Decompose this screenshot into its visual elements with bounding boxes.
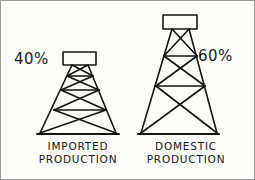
brace-x3a-domestic <box>156 86 217 133</box>
crown-block-imported <box>63 52 96 65</box>
brace-x3b-imported <box>54 90 99 110</box>
percent-label-domestic: 60% <box>198 49 233 64</box>
percent-label-imported: 40% <box>14 52 49 67</box>
caption-domestic-line2: PRODUCTION <box>122 153 250 166</box>
derrick-imported <box>37 52 119 134</box>
brace-x3b-domestic <box>141 86 205 133</box>
brace-x4a-imported <box>54 110 116 133</box>
derrick-domestic <box>138 15 219 134</box>
crown-block-domestic <box>163 15 197 29</box>
figure-canvas: 40% 60% IMPORTED PRODUCTION DOMESTIC PRO… <box>0 0 255 180</box>
caption-domestic: DOMESTIC PRODUCTION <box>122 140 250 165</box>
leg-right-domestic <box>189 29 217 133</box>
leg-left-domestic <box>141 29 172 133</box>
caption-domestic-line1: DOMESTIC <box>122 140 250 153</box>
